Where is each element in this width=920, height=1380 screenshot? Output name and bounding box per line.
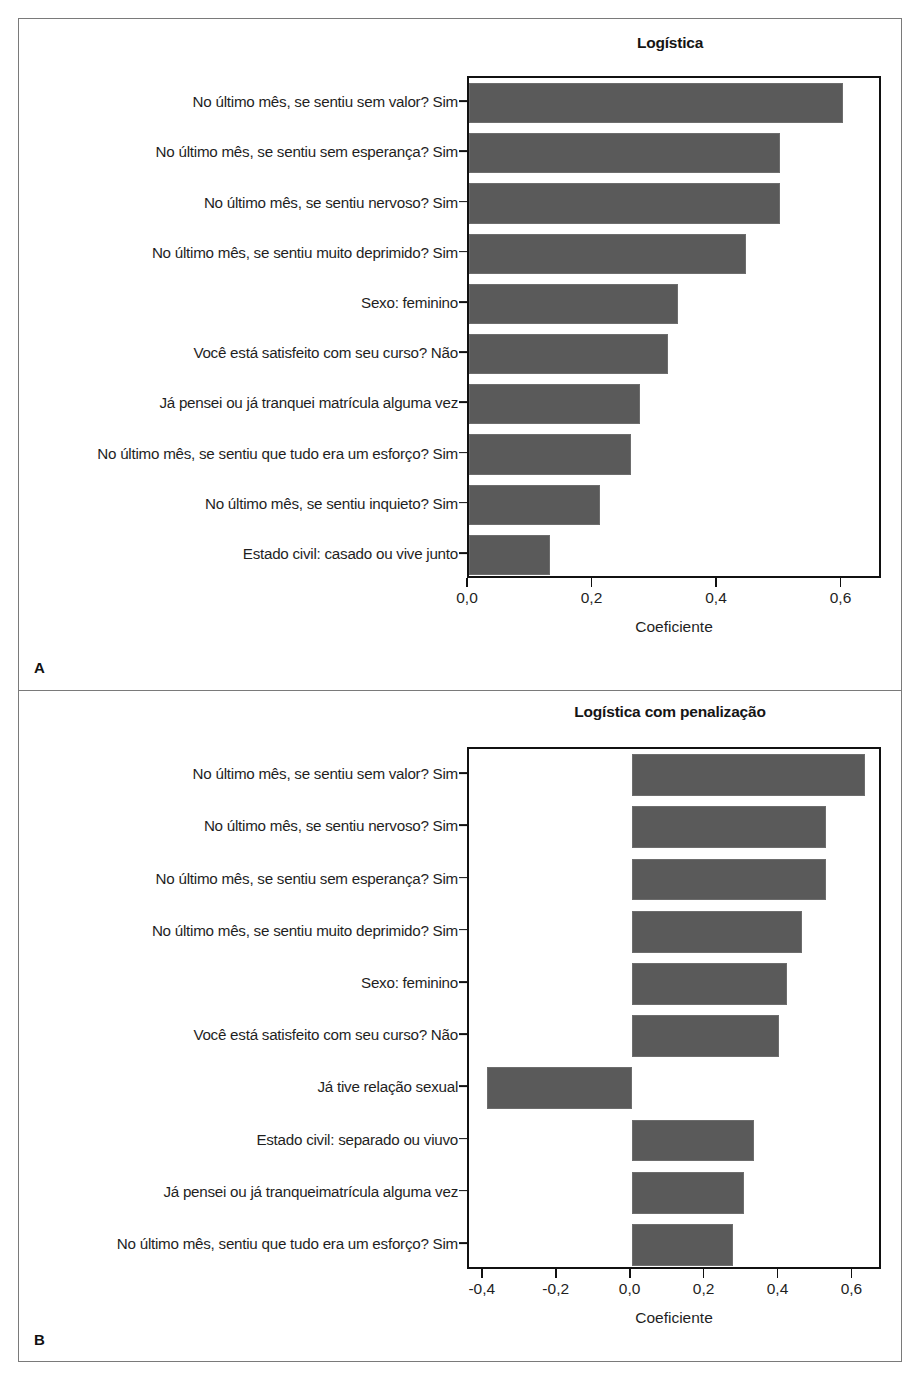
- bar: [632, 859, 826, 901]
- x-axis-tick-label: 0,6: [841, 1280, 863, 1298]
- y-axis-tick-label: No último mês, se sentiu que tudo era um…: [97, 444, 467, 461]
- y-axis-tick-label: Já pensei ou já tranqueimatrícula alguma…: [163, 1182, 467, 1199]
- bar: [632, 911, 802, 953]
- x-axis-tick: [591, 578, 593, 587]
- bar-row: [469, 183, 879, 223]
- y-axis-tick-label: No último mês, se sentiu inquieto? Sim: [205, 494, 467, 511]
- bar-row: [469, 535, 879, 575]
- x-axis-tick-label: 0,4: [705, 589, 727, 607]
- y-axis-tick-label: No último mês, se sentiu muito deprimido…: [152, 243, 467, 260]
- y-axis-tick-label: No último mês, se sentiu sem esperança? …: [156, 143, 467, 160]
- panel-b-plot-area: [467, 747, 881, 1269]
- panel-b: Logística com penalização B No último mê…: [18, 690, 902, 1362]
- bar-row: [469, 1224, 879, 1266]
- bar: [632, 1224, 734, 1266]
- panel-b-x-axis-title: Coeficiente: [467, 1309, 881, 1327]
- panel-a-x-axis-title: Coeficiente: [467, 618, 881, 636]
- panel-a-y-axis-labels: No último mês, se sentiu sem valor? SimN…: [27, 76, 467, 578]
- bar-row: [469, 859, 879, 901]
- bar-row: [469, 133, 879, 173]
- x-axis-tick: [777, 1269, 779, 1278]
- bar-row: [469, 754, 879, 796]
- x-axis-tick: [481, 1269, 483, 1278]
- bar: [632, 754, 865, 796]
- panel-b-letter: B: [34, 1331, 45, 1348]
- bar-row: [469, 963, 879, 1005]
- bar: [469, 334, 668, 374]
- bar: [469, 83, 843, 123]
- x-axis-tick-label: 0,0: [456, 589, 478, 607]
- bar-row: [469, 806, 879, 848]
- x-axis-tick: [466, 578, 468, 587]
- bar: [632, 963, 787, 1005]
- panel-a-bars: [469, 78, 879, 576]
- x-axis-tick-label: -0,4: [468, 1280, 495, 1298]
- y-axis-tick-label: No último mês, se sentiu nervoso? Sim: [204, 817, 467, 834]
- panel-b-y-axis-labels: No último mês, se sentiu sem valor? SimN…: [27, 747, 467, 1269]
- bar-row: [469, 83, 879, 123]
- y-axis-tick-label: Estado civil: casado ou vive junto: [243, 544, 467, 561]
- panel-a-letter: A: [34, 659, 45, 676]
- x-axis-tick-label: 0,2: [693, 1280, 715, 1298]
- y-axis-tick-label: No último mês, se sentiu muito deprimido…: [152, 921, 467, 938]
- y-axis-tick-label: Já pensei ou já tranquei matrícula algum…: [159, 394, 467, 411]
- bar: [469, 434, 631, 474]
- bar-row: [469, 1172, 879, 1214]
- x-axis-tick-label: 0,2: [581, 589, 603, 607]
- x-axis-tick: [555, 1269, 557, 1278]
- bar: [469, 183, 780, 223]
- y-axis-tick-label: No último mês, se sentiu nervoso? Sim: [204, 193, 467, 210]
- bar: [469, 384, 640, 424]
- panel-a: Logística A No último mês, se sentiu sem…: [18, 18, 902, 690]
- y-axis-tick-label: No último mês, se sentiu sem valor? Sim: [193, 765, 467, 782]
- x-axis-tick: [703, 1269, 705, 1278]
- bar-row: [469, 485, 879, 525]
- bar: [487, 1067, 631, 1109]
- bar-row: [469, 1015, 879, 1057]
- panel-b-bars: [469, 749, 879, 1267]
- bar-row: [469, 284, 879, 324]
- bar: [632, 806, 826, 848]
- panel-a-title: Logística: [18, 34, 902, 52]
- y-axis-tick-label: Já tive relação sexual: [317, 1078, 467, 1095]
- figure-container: Logística A No último mês, se sentiu sem…: [0, 0, 920, 1380]
- bar-row: [469, 911, 879, 953]
- x-axis-tick-label: -0,2: [542, 1280, 569, 1298]
- bar: [469, 234, 746, 274]
- x-axis-tick-label: 0,6: [830, 589, 852, 607]
- bar-row: [469, 334, 879, 374]
- bar: [469, 535, 550, 575]
- panel-a-plot-area: [467, 76, 881, 578]
- y-axis-tick-label: Você está satisfeito com seu curso? Não: [193, 1026, 467, 1043]
- x-axis-tick-label: 0,4: [767, 1280, 789, 1298]
- y-axis-tick-label: Você está satisfeito com seu curso? Não: [193, 344, 467, 361]
- bar: [469, 485, 600, 525]
- bar-row: [469, 1120, 879, 1162]
- x-axis-tick: [840, 578, 842, 587]
- bar: [469, 133, 780, 173]
- y-axis-tick-label: Estado civil: separado ou viuvo: [256, 1130, 467, 1147]
- bar-row: [469, 234, 879, 274]
- bar: [632, 1172, 745, 1214]
- x-axis-tick: [629, 1269, 631, 1278]
- y-axis-tick-label: Sexo: feminino: [361, 973, 467, 990]
- x-axis-tick: [851, 1269, 853, 1278]
- panel-b-x-axis: Coeficiente -0,4-0,20,00,20,40,6: [467, 1269, 881, 1339]
- y-axis-tick-label: No último mês, se sentiu sem esperança? …: [156, 869, 467, 886]
- y-axis-tick-label: No último mês, se sentiu sem valor? Sim: [193, 93, 467, 110]
- y-axis-tick-label: No último mês, sentiu que tudo era um es…: [117, 1234, 467, 1251]
- bar-row: [469, 384, 879, 424]
- panel-b-title: Logística com penalização: [18, 703, 902, 721]
- y-axis-tick-label: Sexo: feminino: [361, 293, 467, 310]
- bar-row: [469, 1067, 879, 1109]
- bar-row: [469, 434, 879, 474]
- bar: [632, 1015, 780, 1057]
- x-axis-tick-label: 0,0: [619, 1280, 641, 1298]
- x-axis-tick: [715, 578, 717, 587]
- bar: [469, 284, 678, 324]
- panel-a-x-axis: Coeficiente 0,00,20,40,6: [467, 578, 881, 648]
- bar: [632, 1120, 754, 1162]
